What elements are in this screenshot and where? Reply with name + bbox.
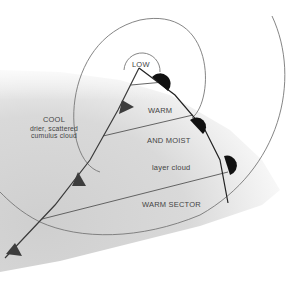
- label-layer-cloud: layer cloud: [152, 164, 190, 173]
- label-low: LOW: [132, 61, 150, 70]
- label-cool-desc-2: cumulus cloud: [14, 132, 94, 140]
- label-cool-desc-1: drier, scattered: [14, 125, 94, 133]
- shaded-airmass: [0, 70, 280, 272]
- label-and-moist: AND MOIST: [147, 137, 190, 146]
- label-warm-sector: WARM SECTOR: [142, 201, 201, 210]
- label-cool-region: COOL drier, scattered cumulus cloud: [14, 116, 94, 140]
- label-cool: COOL: [14, 116, 94, 125]
- label-warm: WARM: [148, 107, 172, 116]
